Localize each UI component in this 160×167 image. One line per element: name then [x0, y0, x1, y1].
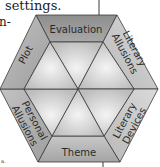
label-evaluation: Evaluation: [50, 24, 103, 35]
hexagon-diagram: Evaluation Literary Allusions Literary D…: [0, 0, 160, 167]
label-theme: Theme: [61, 147, 97, 158]
